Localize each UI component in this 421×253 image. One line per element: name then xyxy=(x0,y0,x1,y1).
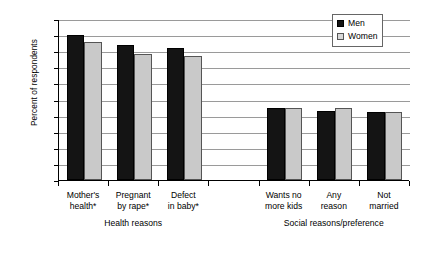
bar-men xyxy=(167,48,185,180)
bar-chart: Percent of respondents 10090807060504030… xyxy=(0,0,421,253)
gridline xyxy=(59,101,410,102)
bar-women xyxy=(335,108,353,180)
x-tick-mark xyxy=(208,181,209,186)
x-tick-mark xyxy=(259,181,260,186)
x-category-label: Defect in baby* xyxy=(151,190,215,212)
y-axis-title: Percent of respondents xyxy=(30,3,39,163)
x-tick-mark xyxy=(309,181,310,186)
gridline xyxy=(59,149,410,150)
gridline xyxy=(59,117,410,118)
x-tick-mark xyxy=(58,181,59,186)
x-tick-mark xyxy=(409,181,410,186)
gridline xyxy=(59,52,410,53)
bar-men xyxy=(67,35,85,180)
legend: Men Women xyxy=(332,14,383,47)
bar-women xyxy=(385,112,403,180)
legend-label-men: Men xyxy=(348,19,365,28)
legend-label-women: Women xyxy=(348,32,377,41)
bar-men xyxy=(267,108,285,180)
bar-men xyxy=(367,112,385,180)
x-tick-mark xyxy=(108,181,109,186)
x-tick-mark xyxy=(359,181,360,186)
legend-swatch-men-icon xyxy=(337,20,344,27)
x-tick-mark xyxy=(158,181,159,186)
x-group-label: Health reasons xyxy=(43,218,223,228)
bar-women xyxy=(285,108,303,180)
x-group-label: Social reasons/preference xyxy=(244,218,421,228)
gridline xyxy=(59,84,410,85)
gridline xyxy=(59,133,410,134)
bar-women xyxy=(184,56,202,180)
gridline xyxy=(59,68,410,69)
bar-men xyxy=(317,111,335,180)
x-category-label: Not married xyxy=(352,190,416,212)
legend-item-men: Men xyxy=(337,17,377,30)
bar-men xyxy=(117,45,135,180)
bar-women xyxy=(134,54,152,180)
legend-item-women: Women xyxy=(337,30,377,43)
legend-swatch-women-icon xyxy=(337,33,344,40)
gridline xyxy=(59,165,410,166)
bar-women xyxy=(84,42,102,180)
